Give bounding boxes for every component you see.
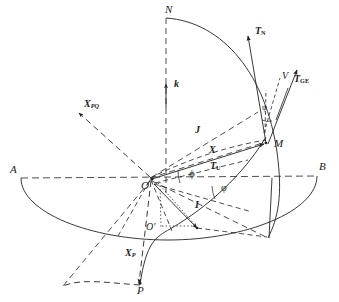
orbit-plane-edge-left [63,181,150,286]
vector-label-I: I [195,200,199,210]
diagram-svg [0,0,339,302]
vector-label-T-GE-sub: GE [300,77,309,84]
lower-chord-dashed [197,228,267,237]
vector-label-J-text: J [195,124,200,135]
vector-label-k-text: k [174,78,179,89]
point-label-P: P [137,285,144,296]
vector-label-T-GE: TGE [294,74,309,85]
point-marker-M [265,142,268,145]
O-to-Oprime-dotted [160,182,161,228]
point-label-B: B [319,161,326,172]
vector-label-X-PQ-sub: PQ [91,102,99,109]
vector-label-T-U-sub: U [216,164,220,171]
vector-label-J: J [195,125,200,135]
vector-label-X-P: XP [125,248,135,259]
meridian-arc-N-M [166,18,280,238]
point-label-N: N [165,4,172,15]
I-vector-line [154,184,197,228]
vector-label-I-text: I [195,199,199,210]
V-direction-line [276,88,288,120]
equator-ellipse [21,176,317,240]
orbit-circle-dashed [63,282,140,286]
vector-label-T-U: TU [210,161,221,172]
angle-label-phi: ϕ [189,168,195,179]
angle-label-varphi: φ [221,183,227,193]
T-N-vector-line [248,36,266,143]
vector-label-X-P-sub: P [132,251,136,258]
T-GE-vector-line [268,70,297,144]
vector-label-X-PQ: XPQ [84,99,99,110]
varphi-angle-arc [212,186,215,199]
point-label-M: M [274,138,283,149]
point-marker-I-end [196,227,199,230]
angle-label-psi: ψ [262,104,267,112]
point-label-V: V [282,71,288,81]
X-PQ-vector-line [79,113,150,177]
point-label-O-prime: O' [146,222,155,232]
O-dotted-diagonal [158,183,195,225]
vector-label-T-N-sub: N [261,29,265,36]
varphi-ray-dashed [154,184,252,212]
orbit-upper-dashed [150,140,266,178]
equator-diameter-line [21,176,317,178]
point-marker-O [150,177,153,180]
point-label-O: O [141,180,149,191]
vector-label-X-text: X [209,144,216,155]
vector-label-X-P-text: X [125,247,132,258]
point-label-A: A [10,164,17,175]
vector-label-k: k [174,79,179,89]
figure-canvas: N A B O O' M P V k J X I XPQ XP TN TGE T… [0,0,339,302]
vector-label-X: X [209,145,216,155]
chord-O-to-M-dashed [150,142,266,178]
vector-label-T-N: TN [255,26,266,37]
X-vector-line [152,144,264,179]
vector-label-X-PQ-text: X [84,98,91,109]
